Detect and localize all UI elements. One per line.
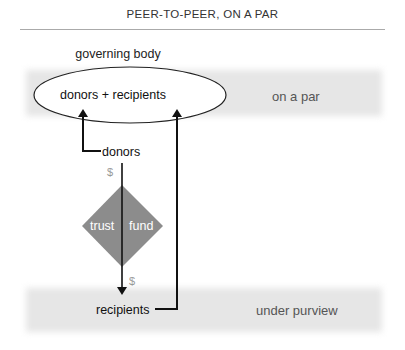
recipients-to-governing-arrow (155, 113, 177, 309)
donors-recipients-label: donors + recipients (22, 88, 204, 102)
recipients-label: recipients (96, 303, 150, 317)
fund-label: fund (129, 219, 153, 233)
on-a-par-label: on a par (272, 89, 320, 104)
governing-body-label: governing body (0, 47, 236, 61)
dollar-icon: $ (107, 166, 113, 178)
donors-label: donors (102, 145, 140, 159)
dollar-icon: $ (129, 275, 135, 287)
under-purview-label: under purview (256, 303, 338, 318)
trust-label: trust (90, 219, 114, 233)
